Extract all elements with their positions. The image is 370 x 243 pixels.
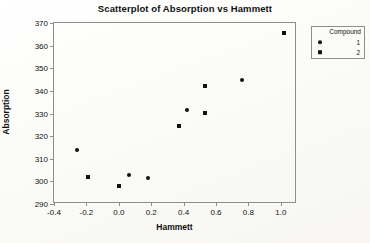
data-point [177,124,181,128]
x-axis-tick [151,202,152,206]
data-point [127,173,131,177]
x-axis-tick-label: 0.4 [178,208,189,217]
y-axis-tick-label: 290 [35,200,48,209]
y-axis-tick-label: 370 [35,19,48,28]
y-axis-title: Absorption [1,89,11,134]
x-axis-tick-label: 0.8 [243,208,254,217]
legend: Compound 12 [311,26,365,59]
y-axis-tick [50,23,54,24]
y-axis-tick [50,114,54,115]
x-axis-tick-label: 0.6 [210,208,221,217]
y-axis-tick-label: 300 [35,177,48,186]
y-axis-tick-label: 350 [35,64,48,73]
y-axis-tick-label: 360 [35,41,48,50]
x-axis-tick [248,202,249,206]
data-point [282,31,286,35]
legend-marker-icon [318,50,322,54]
data-point [117,184,121,188]
x-axis-title: Hammett [53,222,296,232]
x-axis-tick [119,202,120,206]
data-point [240,78,244,82]
x-axis-tick-label: 0.2 [146,208,157,217]
data-point [203,84,207,88]
scatterplot-figure: Scatterplot of Absorption vs Hammett 290… [0,0,370,243]
x-axis-tick-label: -0.2 [79,208,93,217]
x-axis-tick-label: 1.0 [275,208,286,217]
legend-entry-label: 2 [356,49,360,56]
x-axis-tick [54,202,55,206]
y-axis-tick [50,46,54,47]
x-axis-tick [86,202,87,206]
data-point [185,108,189,112]
data-point [146,176,150,180]
data-point [203,111,207,115]
y-axis-tick [50,136,54,137]
data-point [75,148,79,152]
y-axis-tick [50,68,54,69]
chart-title: Scatterplot of Absorption vs Hammett [0,3,370,14]
legend-marker-icon [318,40,322,44]
y-axis-tick [50,91,54,92]
x-axis-tick [216,202,217,206]
legend-title: Compound [329,28,361,35]
legend-entry-label: 1 [356,39,360,46]
plot-area: 290300310320330340350360370 -0.4-0.20.00… [53,22,296,203]
y-axis-tick [50,159,54,160]
y-axis-tick-label: 330 [35,109,48,118]
data-point [86,175,90,179]
x-axis-tick-label: 0.0 [113,208,124,217]
x-axis-tick-label: -0.4 [47,208,61,217]
y-axis-tick [50,181,54,182]
legend-entry[interactable]: 2 [312,47,364,57]
x-axis-tick [184,202,185,206]
legend-entry[interactable]: 1 [312,37,364,47]
y-axis-tick-label: 320 [35,132,48,141]
y-axis-tick-label: 310 [35,154,48,163]
y-axis-tick-label: 340 [35,86,48,95]
x-axis-tick [281,202,282,206]
